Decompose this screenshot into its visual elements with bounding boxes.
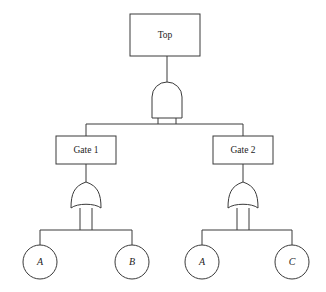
- gate-2-node[interactable]: Gate 2: [213, 136, 273, 164]
- basic-event-c-node[interactable]: C: [275, 245, 309, 279]
- or-gate-left[interactable]: [71, 182, 101, 208]
- basic-event-c-label: C: [289, 256, 296, 267]
- top-gate-and[interactable]: [152, 82, 182, 118]
- top-event-node[interactable]: Top: [130, 14, 200, 56]
- basic-event-a-left-node[interactable]: A: [23, 245, 57, 279]
- fault-tree-diagram: Top Gate 1 Gate 2 A: [0, 0, 326, 292]
- or-gate-right-shape[interactable]: [228, 182, 258, 208]
- and-gate-shape[interactable]: [152, 82, 182, 118]
- gate-1-node[interactable]: Gate 1: [56, 136, 116, 164]
- or-gate-right[interactable]: [228, 182, 258, 208]
- basic-event-a-right-label: A: [198, 256, 206, 267]
- fault-tree-canvas: Top Gate 1 Gate 2 A: [0, 0, 326, 292]
- top-event-label: Top: [158, 30, 173, 40]
- basic-event-a-left-label: A: [36, 256, 44, 267]
- basic-event-b-label: B: [129, 256, 135, 267]
- gate-1-label: Gate 1: [73, 145, 98, 155]
- gate-2-label: Gate 2: [230, 145, 255, 155]
- basic-event-a-right-node[interactable]: A: [185, 245, 219, 279]
- or-gate-left-shape[interactable]: [71, 182, 101, 208]
- basic-event-b-node[interactable]: B: [115, 245, 149, 279]
